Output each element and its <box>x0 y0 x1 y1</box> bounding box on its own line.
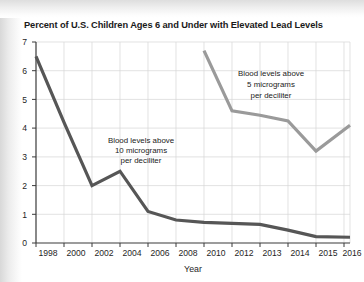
annotation-line: per deciliter <box>251 91 292 100</box>
annotation-line: Blood levels above <box>108 136 175 145</box>
x-tick-label: 2013 <box>262 248 281 258</box>
x-axis-tick-labels: 1998 2000 2002 2004 2006 2008 2010 2012 … <box>38 248 361 258</box>
x-axis-ticks <box>36 243 344 247</box>
annotation-line: Blood levels above <box>238 69 305 78</box>
y-tick-label: 1 <box>22 210 27 220</box>
x-tick-label: 2010 <box>206 248 225 258</box>
y-tick-label: 6 <box>22 66 27 76</box>
y-tick-label: 4 <box>22 123 27 133</box>
x-tick-label: 2000 <box>66 248 85 258</box>
x-tick-label: 2015 <box>318 248 337 258</box>
y-tick-label: 0 <box>22 238 27 248</box>
x-tick-label: 2008 <box>178 248 197 258</box>
y-tick-label: 7 <box>22 37 27 47</box>
x-tick-label: 1998 <box>38 248 57 258</box>
x-tick-label: 2006 <box>150 248 169 258</box>
y-axis-tick-labels: 7 6 5 4 3 2 1 0 <box>22 37 27 248</box>
x-tick-label: 2002 <box>94 248 113 258</box>
x-tick-label: 2014 <box>290 248 309 258</box>
chart-plot-area: 7 6 5 4 3 2 1 0 1998 2000 <box>0 0 364 282</box>
chart-figure: Percent of U.S. Children Ages 6 and Unde… <box>0 0 364 282</box>
annotation-line: 5 micrograms <box>247 80 295 89</box>
y-tick-label: 2 <box>22 181 27 191</box>
annotation-line: per deciliter <box>121 156 162 165</box>
x-tick-label: 2004 <box>122 248 141 258</box>
y-tick-label: 5 <box>22 95 27 105</box>
y-tick-label: 3 <box>22 152 27 162</box>
x-axis-title: Year <box>184 264 202 274</box>
x-tick-label: 2012 <box>234 248 253 258</box>
x-tick-label: 2016 <box>342 248 361 258</box>
annotation-line: 10 micrograms <box>115 146 167 155</box>
